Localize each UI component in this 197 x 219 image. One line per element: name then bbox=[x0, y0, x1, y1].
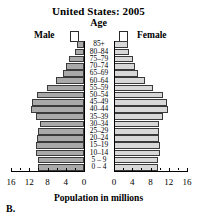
bar-female bbox=[114, 121, 159, 128]
chart-title: United States: 2005 bbox=[0, 5, 197, 17]
bar-male bbox=[40, 121, 84, 128]
x-tick-label-right: 4 bbox=[125, 177, 139, 187]
bar-female bbox=[114, 99, 167, 106]
x-tick-left bbox=[48, 168, 49, 171]
x-tick-right bbox=[169, 168, 170, 171]
bar-male bbox=[31, 106, 84, 113]
axis-center-right bbox=[114, 41, 115, 172]
bar-female bbox=[114, 106, 168, 113]
x-minor-tick-left bbox=[20, 168, 21, 170]
legend-label-male: Male bbox=[34, 30, 55, 40]
x-tick-label-left: 8 bbox=[41, 177, 55, 187]
bar-female bbox=[114, 113, 163, 120]
x-tick-label-left: 12 bbox=[22, 177, 36, 187]
x-tick-right bbox=[151, 168, 152, 171]
bar-female bbox=[114, 77, 145, 84]
age-group-label: 0 – 4 bbox=[84, 163, 114, 171]
x-tick-label-right: 12 bbox=[162, 177, 176, 187]
x-tick-left bbox=[11, 168, 12, 171]
bar-male bbox=[77, 41, 84, 48]
x-minor-tick-right bbox=[123, 168, 124, 170]
x-tick-left bbox=[29, 168, 30, 171]
x-minor-tick-right bbox=[141, 168, 142, 170]
x-tick-label-left: 0 bbox=[77, 177, 91, 187]
bar-male bbox=[38, 164, 84, 171]
x-minor-tick-left bbox=[57, 168, 58, 170]
x-tick-label-left: 16 bbox=[4, 177, 18, 187]
x-axis-right bbox=[114, 171, 188, 172]
bar-male bbox=[38, 157, 84, 164]
bar-male bbox=[36, 113, 84, 120]
population-pyramid-figure: United States: 2005 Age Male Female 85+8… bbox=[0, 0, 197, 219]
x-minor-tick-left bbox=[75, 168, 76, 170]
x-tick-right bbox=[132, 168, 133, 171]
bar-female bbox=[114, 63, 135, 70]
x-tick-label-right: 16 bbox=[180, 177, 194, 187]
bar-male bbox=[66, 63, 84, 70]
bar-female bbox=[114, 128, 159, 135]
bar-female bbox=[114, 157, 158, 164]
bar-female bbox=[114, 135, 159, 142]
panel-label: B. bbox=[6, 203, 15, 214]
x-axis-left bbox=[11, 171, 85, 172]
bar-male bbox=[32, 99, 84, 106]
legend-label-female: Female bbox=[137, 30, 167, 40]
bar-female bbox=[114, 85, 153, 92]
x-tick-left bbox=[84, 168, 85, 171]
x-tick-label-right: 8 bbox=[144, 177, 158, 187]
bar-female bbox=[114, 49, 129, 56]
bar-male bbox=[75, 49, 84, 56]
bar-male bbox=[47, 85, 84, 92]
bar-male bbox=[37, 135, 84, 142]
bar-male bbox=[56, 77, 84, 84]
bar-male bbox=[63, 70, 84, 77]
axis-center-left bbox=[84, 41, 85, 172]
bar-female bbox=[114, 150, 160, 157]
x-tick-right bbox=[114, 168, 115, 171]
bar-female bbox=[114, 164, 158, 171]
bar-female bbox=[114, 41, 128, 48]
x-tick-left bbox=[66, 168, 67, 171]
bar-male bbox=[36, 142, 84, 149]
x-minor-tick-right bbox=[178, 168, 179, 170]
bar-female bbox=[114, 56, 133, 63]
x-minor-tick-right bbox=[160, 168, 161, 170]
bar-male bbox=[36, 150, 84, 157]
bar-female bbox=[114, 70, 138, 77]
plot-area: 85+80–8475–7970–7465–6960–6455–5950–5445… bbox=[0, 41, 197, 171]
x-axis-caption: Population in millions bbox=[0, 193, 197, 203]
bar-male bbox=[69, 56, 84, 63]
bar-female bbox=[114, 92, 163, 99]
bar-female bbox=[114, 142, 160, 149]
x-tick-right bbox=[187, 168, 188, 171]
bar-male bbox=[38, 128, 84, 135]
x-minor-tick-left bbox=[38, 168, 39, 170]
x-tick-label-left: 4 bbox=[59, 177, 73, 187]
bar-male bbox=[37, 92, 84, 99]
chart-subtitle: Age bbox=[0, 17, 197, 28]
x-tick-label-right: 0 bbox=[107, 177, 121, 187]
